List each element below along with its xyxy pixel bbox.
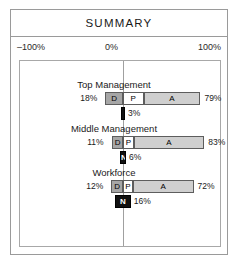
- axis-label-row: –100% 0% 100%: [11, 37, 227, 60]
- bar-segment-a: A: [144, 92, 201, 105]
- axis-tick-minus-100: –100%: [17, 42, 45, 52]
- axis-tick-zero: 0%: [105, 42, 118, 52]
- negative-bar-percent: 3%: [128, 108, 140, 118]
- bar-segment-a: A: [133, 180, 194, 193]
- bar-group-title: Middle Management: [14, 123, 214, 134]
- stacked-bar: DPA: [20, 92, 220, 105]
- stacked-bar: DPA: [20, 136, 220, 149]
- bar-segment-n: N: [115, 195, 131, 208]
- summary-chart-frame: SUMMARY –100% 0% 100% Top Management18%7…: [10, 9, 228, 255]
- negative-bar-percent: 16%: [134, 196, 151, 206]
- bar-segment-p: P: [123, 92, 144, 105]
- bar-group-title: Top Management: [14, 79, 214, 90]
- stacked-bar: DPA: [20, 180, 220, 193]
- bar-group-title: Workforce: [14, 167, 214, 178]
- bar-segment-n: [121, 107, 125, 120]
- bar-segment-p: P: [123, 136, 134, 149]
- bar-segment-n: N: [120, 151, 126, 164]
- bar-segment-d: D: [112, 136, 123, 149]
- negative-bar-percent: 6%: [129, 152, 141, 162]
- page-title: SUMMARY: [86, 17, 153, 29]
- plot-area: Top Management18%79%DPA3%Middle Manageme…: [19, 60, 221, 247]
- bar-segment-p: P: [123, 180, 133, 193]
- bar-segment-d: D: [111, 180, 123, 193]
- bar-segment-a: A: [134, 136, 205, 149]
- axis-tick-plus-100: 100%: [198, 42, 221, 52]
- chart-title-band: SUMMARY: [11, 10, 227, 37]
- bar-segment-d: D: [105, 92, 123, 105]
